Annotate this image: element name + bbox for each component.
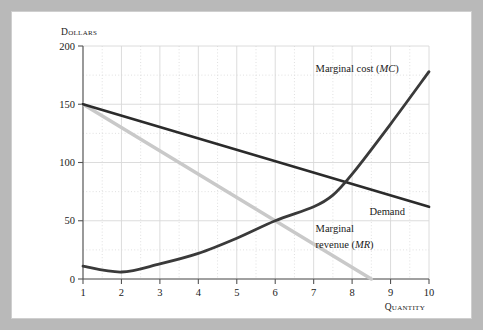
mc-label: Marginal cost (MC) [316,63,400,75]
gridlines [83,46,429,279]
economics-line-chart: 05010015020012345678910 Marginal cost (M… [12,12,473,320]
y-tick-label: 50 [65,215,76,226]
y-tick-label: 150 [59,99,75,110]
chart-canvas: 05010015020012345678910 Marginal cost (M… [12,12,473,320]
x-tick-label: 3 [157,287,162,298]
x-tick-label: 10 [424,287,435,298]
x-tick-label: 6 [273,287,278,298]
screenshot-frame: 05010015020012345678910 Marginal cost (M… [0,0,483,330]
tick-labels: 05010015020012345678910 [59,41,434,298]
x-axis-title: Quantity [385,302,425,312]
y-tick-label: 100 [59,157,75,168]
x-tick-label: 9 [388,287,393,298]
series-line [83,104,371,279]
x-tick-label: 7 [311,287,316,298]
x-tick-label: 5 [234,287,239,298]
mr-label-line2: revenue (MR) [316,239,375,251]
tick-marks [78,46,429,284]
x-tick-label: 2 [119,287,124,298]
x-tick-label: 8 [349,287,354,298]
demand-label: Demand [369,206,405,217]
x-tick-label: 4 [196,287,202,298]
y-tick-label: 0 [70,274,75,285]
x-tick-label: 1 [80,287,85,298]
y-tick-label: 200 [59,41,75,52]
series-annotations: Marginal cost (MC)DemandMarginalrevenue … [316,63,406,251]
figure-card: 05010015020012345678910 Marginal cost (M… [11,11,472,319]
y-axis-title: Dollars [61,27,97,37]
mr-label-line1: Marginal [316,223,354,234]
